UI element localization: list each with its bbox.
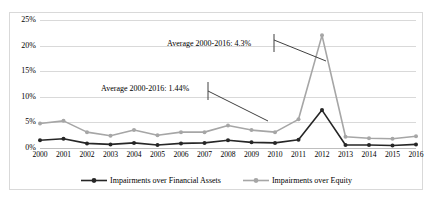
data-point-marker [203,141,207,145]
y-axis-tick-label: 15% [21,67,36,75]
data-point-marker [414,142,418,146]
data-point-marker [320,108,324,112]
x-axis-tick-label: 2000 [32,150,47,160]
x-axis-tick-label: 2002 [79,150,94,160]
x-axis-tick-label: 2007 [197,150,212,160]
data-point-marker [156,133,160,137]
data-point-marker [85,130,89,134]
data-point-marker [391,137,395,141]
data-point-marker [179,141,183,145]
series-impairments-over-equity [38,33,418,140]
x-axis-tick-label: 2009 [244,150,259,160]
data-point-marker [391,143,395,147]
x-axis-tick-label: 2014 [361,150,376,160]
legend-swatch-icon [81,176,107,185]
legend-item-label: Impairments over Financial Assets [110,176,221,185]
x-axis-tick-label: 2004 [126,150,141,160]
chart-container: 0%5%10%15%20%25% 20002001200220032004200… [0,0,433,214]
y-axis-tick-label: 20% [21,42,36,50]
data-point-marker [38,121,42,125]
x-axis-tick-label: 2016 [408,150,423,160]
x-axis-tick-label: 2008 [220,150,235,160]
legend-item[interactable]: Impairments over Equity [243,176,352,185]
data-point-marker [320,33,324,37]
data-point-marker [62,119,66,123]
x-axis-tick-label: 2010 [267,150,282,160]
x-axis-labels: 2000200120022003200420052006200720082009… [40,150,416,164]
data-point-marker [344,143,348,147]
data-point-marker [109,134,113,138]
x-axis-tick-label: 2005 [150,150,165,160]
data-point-marker [273,130,277,134]
data-point-marker [226,123,230,127]
data-point-marker [414,134,418,138]
data-point-marker [297,117,301,121]
x-axis-tick-label: 2006 [173,150,188,160]
series-line [40,35,416,138]
data-point-marker [203,130,207,134]
legend-swatch-icon [243,176,269,185]
data-point-marker [250,128,254,132]
x-axis-tick-label: 2003 [103,150,118,160]
data-point-marker [297,138,301,142]
data-point-marker [226,138,230,142]
data-point-marker [85,141,89,145]
data-point-marker [179,130,183,134]
data-point-marker [109,142,113,146]
data-point-marker [132,128,136,132]
chart-legend: Impairments over Financial AssetsImpairm… [0,176,433,185]
series-impairments-over-financial-assets [38,108,418,147]
y-axis-tick-label: 10% [21,93,36,101]
data-point-marker [344,135,348,139]
legend-item[interactable]: Impairments over Financial Assets [81,176,221,185]
data-point-marker [132,141,136,145]
data-point-marker [367,143,371,147]
data-point-marker [62,137,66,141]
x-axis-tick-label: 2015 [385,150,400,160]
x-axis-tick-label: 2012 [314,150,329,160]
data-point-marker [273,141,277,145]
annotation-equity: Average 2000-2016: 4.3% [167,39,251,48]
annotation-financial-assets: Average 2000-2016: 1.44% [101,84,189,93]
x-axis-tick-label: 2013 [338,150,353,160]
x-axis-line [40,148,416,149]
legend-item-label: Impairments over Equity [272,176,352,185]
x-axis-tick-label: 2001 [56,150,71,160]
x-axis-tick-label: 2011 [291,150,306,160]
data-point-marker [250,140,254,144]
data-point-marker [38,138,42,142]
data-point-marker [156,143,160,147]
y-axis-tick-label: 25% [21,16,36,24]
data-point-marker [367,136,371,140]
y-axis-tick-label: 5% [25,118,36,126]
